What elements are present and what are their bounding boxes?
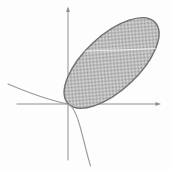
math-figure [0,0,171,170]
figure-canvas [0,0,171,170]
